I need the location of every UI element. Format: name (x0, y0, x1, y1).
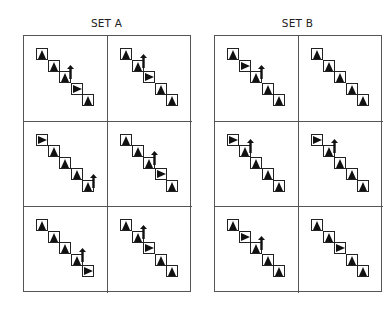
set-a-grid (23, 35, 191, 292)
arrow-up-icon (151, 150, 158, 164)
triangle-right-icon (239, 231, 251, 243)
triangle-up-icon (155, 83, 167, 95)
triangle-up-icon (323, 60, 335, 72)
puzzle-cell (108, 122, 192, 208)
puzzle-cell (108, 36, 192, 122)
triangle-right-icon (155, 168, 167, 180)
triangle-up-icon (273, 265, 285, 277)
arrow-up-icon (258, 64, 265, 78)
triangle-up-icon (346, 168, 358, 180)
triangle-up-icon (357, 94, 369, 106)
triangle-up-icon (166, 94, 178, 106)
triangle-up-icon (334, 71, 346, 83)
arrow-up-icon (258, 235, 265, 249)
triangle-up-icon (262, 254, 274, 266)
triangle-up-icon (357, 180, 369, 192)
triangle-up-icon (273, 94, 285, 106)
puzzle-cell (24, 36, 108, 122)
triangle-up-icon (36, 219, 48, 231)
triangle-up-icon (357, 265, 369, 277)
triangle-up-icon (346, 83, 358, 95)
arrow-up-icon (331, 138, 338, 152)
set-b-title: SET B (214, 17, 381, 29)
triangle-up-icon (311, 48, 323, 60)
arrow-up-icon (90, 173, 97, 187)
puzzle-cell (24, 122, 108, 208)
triangle-up-icon (262, 168, 274, 180)
triangle-up-icon (311, 219, 323, 231)
triangle-up-icon (71, 168, 83, 180)
triangle-up-icon (120, 48, 132, 60)
puzzle-cell (215, 207, 299, 293)
triangle-right-icon (239, 60, 251, 72)
triangle-up-icon (166, 265, 178, 277)
arrow-up-icon (140, 53, 147, 67)
triangle-up-icon (334, 157, 346, 169)
triangle-up-icon (250, 157, 262, 169)
puzzle-cell (215, 36, 299, 122)
arrow-up-icon (67, 64, 74, 78)
triangle-right-icon (36, 134, 48, 146)
puzzle-cell (215, 122, 299, 208)
puzzle-cell (108, 207, 192, 293)
triangle-right-icon (82, 265, 94, 277)
triangle-up-icon (82, 94, 94, 106)
puzzle-cell (24, 207, 108, 293)
set-b-grid (214, 35, 382, 292)
puzzle-cell (299, 207, 383, 293)
triangle-up-icon (132, 145, 144, 157)
triangle-up-icon (36, 48, 48, 60)
set-a-title: SET A (23, 17, 190, 29)
arrow-up-icon (247, 138, 254, 152)
puzzle-cell (299, 122, 383, 208)
triangle-right-icon (143, 71, 155, 83)
triangle-up-icon (155, 254, 167, 266)
triangle-up-icon (262, 83, 274, 95)
triangle-right-icon (311, 134, 323, 146)
triangle-up-icon (227, 219, 239, 231)
triangle-up-icon (120, 134, 132, 146)
arrow-up-icon (79, 247, 86, 261)
triangle-right-icon (334, 242, 346, 254)
triangle-up-icon (323, 231, 335, 243)
triangle-up-icon (120, 219, 132, 231)
triangle-up-icon (227, 48, 239, 60)
triangle-right-icon (227, 134, 239, 146)
triangle-up-icon (346, 254, 358, 266)
triangle-up-icon (273, 180, 285, 192)
triangle-up-icon (48, 60, 60, 72)
triangle-up-icon (59, 242, 71, 254)
triangle-up-icon (48, 145, 60, 157)
triangle-right-icon (71, 83, 83, 95)
triangle-up-icon (59, 157, 71, 169)
triangle-up-icon (166, 180, 178, 192)
arrow-up-icon (140, 224, 147, 238)
triangle-right-icon (143, 242, 155, 254)
puzzle-cell (299, 36, 383, 122)
triangle-up-icon (48, 231, 60, 243)
